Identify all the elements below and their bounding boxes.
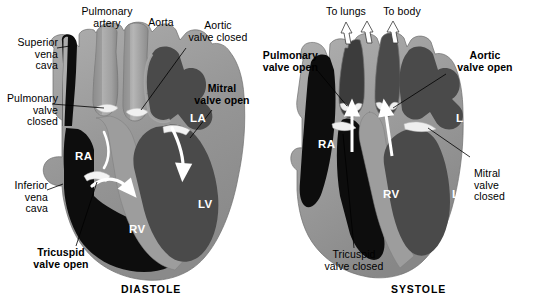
label-aortic-valve-closed-line2: valve closed <box>180 32 256 44</box>
label-mitral-valve-open: Mitral valve open <box>186 83 258 106</box>
label-superior-vena-cava: Superior vena cava <box>2 37 58 72</box>
diastole-heart-illustration <box>43 22 245 280</box>
caption-diastole: DIASTOLE <box>121 283 181 295</box>
label-superior-vena-cava-line3: cava <box>2 60 58 72</box>
label-mitral-valve-closed-line1: Mitral <box>474 168 530 180</box>
label-to-body: To body <box>374 6 430 18</box>
diastole-aorta-shade <box>123 25 130 120</box>
chamber-label-diastole-la: LA <box>190 112 206 124</box>
label-pulmonary-valve-closed: Pulmonary valve closed <box>0 93 58 128</box>
label-to-lungs-line1: To lungs <box>316 6 376 18</box>
chamber-label-systole-ra: RA <box>318 138 335 150</box>
label-aortic-valve-closed-line1: Aortic <box>180 20 256 32</box>
label-aorta-line1: Aorta <box>140 17 182 29</box>
label-pulmonary-valve-open-line1: Pulmonary <box>246 50 318 62</box>
label-inferior-vena-cava: Inferior vena cava <box>0 180 48 215</box>
label-aorta: Aorta <box>140 17 182 29</box>
label-mitral-valve-closed-line3: closed <box>474 191 530 203</box>
label-mitral-valve-closed: Mitral valve closed <box>474 168 530 203</box>
label-aortic-valve-closed: Aortic valve closed <box>180 20 256 43</box>
label-tricuspid-valve-open-line1: Tricuspid <box>22 247 100 259</box>
chamber-label-diastole-lv: LV <box>198 198 213 210</box>
label-tricuspid-valve-closed-line2: valve closed <box>311 261 397 273</box>
chamber-label-systole-rv: RV <box>383 188 400 200</box>
label-inferior-vena-cava-line3: cava <box>0 203 48 215</box>
label-superior-vena-cava-line1: Superior <box>2 37 58 49</box>
chamber-label-diastole-ra: RA <box>75 150 92 162</box>
label-mitral-valve-open-line2: valve open <box>186 95 258 107</box>
label-tricuspid-valve-open-line2: valve open <box>22 259 100 271</box>
label-aortic-valve-open: Aortic valve open <box>446 50 524 73</box>
label-pulmonary-valve-open-line2: valve open <box>246 62 318 74</box>
chamber-label-systole-la: LA <box>456 112 472 124</box>
figure-canvas: Superior vena cava Pulmonary valve close… <box>0 0 535 301</box>
label-pulmonary-valve-closed-line1: Pulmonary <box>0 93 58 105</box>
label-tricuspid-valve-open: Tricuspid valve open <box>22 247 100 270</box>
caption-systole: SYSTOLE <box>391 283 446 295</box>
label-to-body-line1: To body <box>374 6 430 18</box>
label-pulmonary-artery-line1: Pulmonary <box>76 6 138 18</box>
label-aortic-valve-open-line2: valve open <box>446 62 524 74</box>
label-aortic-valve-open-line1: Aortic <box>446 50 524 62</box>
label-mitral-valve-open-line1: Mitral <box>186 83 258 95</box>
chamber-label-diastole-rv: RV <box>129 223 146 235</box>
label-inferior-vena-cava-line1: Inferior <box>0 180 48 192</box>
label-pulmonary-valve-closed-line3: closed <box>0 116 58 128</box>
label-pulmonary-valve-open: Pulmonary valve open <box>246 50 318 73</box>
label-to-lungs: To lungs <box>316 6 376 18</box>
label-tricuspid-valve-closed-line1: Tricuspid <box>311 249 397 261</box>
label-pulmonary-artery: Pulmonary artery <box>76 6 138 29</box>
chamber-label-systole-lv: LV <box>452 188 467 200</box>
label-tricuspid-valve-closed: Tricuspid valve closed <box>311 249 397 272</box>
label-pulmonary-artery-line2: artery <box>76 18 138 30</box>
